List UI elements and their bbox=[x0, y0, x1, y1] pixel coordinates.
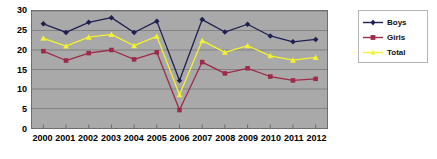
y-axis: 051015202530 bbox=[0, 0, 27, 139]
data-point-diamond bbox=[313, 37, 319, 43]
data-point-square bbox=[200, 60, 205, 65]
data-point-square bbox=[291, 78, 296, 83]
data-point-diamond bbox=[245, 22, 251, 28]
series-total bbox=[40, 31, 318, 97]
x-tick-label: 2000 bbox=[32, 133, 52, 143]
y-tick-label: 25 bbox=[0, 26, 27, 35]
y-tick-label: 30 bbox=[0, 6, 27, 15]
line-chart: 051015202530 200020012002200320042005200… bbox=[0, 0, 437, 159]
y-tick-label: 20 bbox=[0, 46, 27, 55]
data-point-square bbox=[41, 49, 46, 54]
data-point-square bbox=[245, 66, 250, 71]
data-point-diamond bbox=[177, 78, 183, 84]
x-tick-label: 2003 bbox=[101, 133, 121, 143]
x-tick-label: 2001 bbox=[55, 133, 75, 143]
y-tick-label: 5 bbox=[0, 105, 27, 114]
series-line bbox=[43, 18, 315, 81]
y-tick-label: 0 bbox=[0, 125, 27, 134]
data-point-square bbox=[86, 51, 91, 56]
data-point-square bbox=[313, 77, 318, 82]
x-tick-label: 2010 bbox=[261, 133, 281, 143]
legend-label-total: Total bbox=[387, 48, 406, 57]
data-point-square bbox=[223, 71, 228, 76]
x-tick-label: 2004 bbox=[124, 133, 144, 143]
data-point-triangle bbox=[154, 33, 160, 38]
x-tick-label: 2007 bbox=[192, 133, 212, 143]
y-tick-label: 10 bbox=[0, 85, 27, 94]
legend-marker-square-icon bbox=[362, 32, 384, 43]
data-point-triangle bbox=[40, 35, 46, 40]
y-tick-label: 15 bbox=[0, 66, 27, 75]
data-point-square bbox=[268, 74, 273, 79]
x-tick-label: 2009 bbox=[238, 133, 258, 143]
x-tick-label: 2011 bbox=[284, 133, 304, 143]
data-point-diamond bbox=[267, 33, 273, 39]
data-point-triangle bbox=[245, 43, 251, 48]
x-tick-label: 2008 bbox=[215, 133, 235, 143]
legend-item-total: Total bbox=[362, 45, 424, 60]
x-axis: 2000200120022003200420052006200720082009… bbox=[31, 133, 328, 153]
legend-item-boys: Boys bbox=[362, 15, 424, 30]
x-tick-label: 2006 bbox=[169, 133, 189, 143]
series-line bbox=[43, 34, 315, 94]
data-point-square bbox=[132, 57, 137, 62]
x-tick-label: 2002 bbox=[78, 133, 98, 143]
legend-label-boys: Boys bbox=[387, 18, 407, 27]
data-point-triangle bbox=[177, 92, 183, 97]
legend-item-girls: Girls bbox=[362, 30, 424, 45]
chart-legend: Boys Girls Total bbox=[358, 10, 428, 63]
legend-marker-diamond-icon bbox=[362, 17, 384, 28]
legend-label-girls: Girls bbox=[387, 33, 405, 42]
x-tick-label: 2005 bbox=[147, 133, 167, 143]
data-point-diamond bbox=[290, 39, 296, 45]
legend-marker-triangle-icon bbox=[362, 47, 384, 58]
data-point-diamond bbox=[154, 18, 160, 24]
plot-svg bbox=[32, 11, 327, 128]
plot-area bbox=[31, 10, 328, 129]
data-point-triangle bbox=[199, 38, 205, 43]
data-point-square bbox=[177, 108, 182, 113]
data-point-diamond bbox=[41, 21, 47, 27]
data-point-square bbox=[109, 48, 114, 53]
data-point-diamond bbox=[86, 20, 92, 26]
data-point-square bbox=[64, 58, 69, 63]
data-point-diamond bbox=[199, 17, 205, 23]
data-point-square bbox=[155, 50, 160, 55]
x-tick-label: 2012 bbox=[307, 133, 327, 143]
series-boys bbox=[41, 15, 319, 83]
